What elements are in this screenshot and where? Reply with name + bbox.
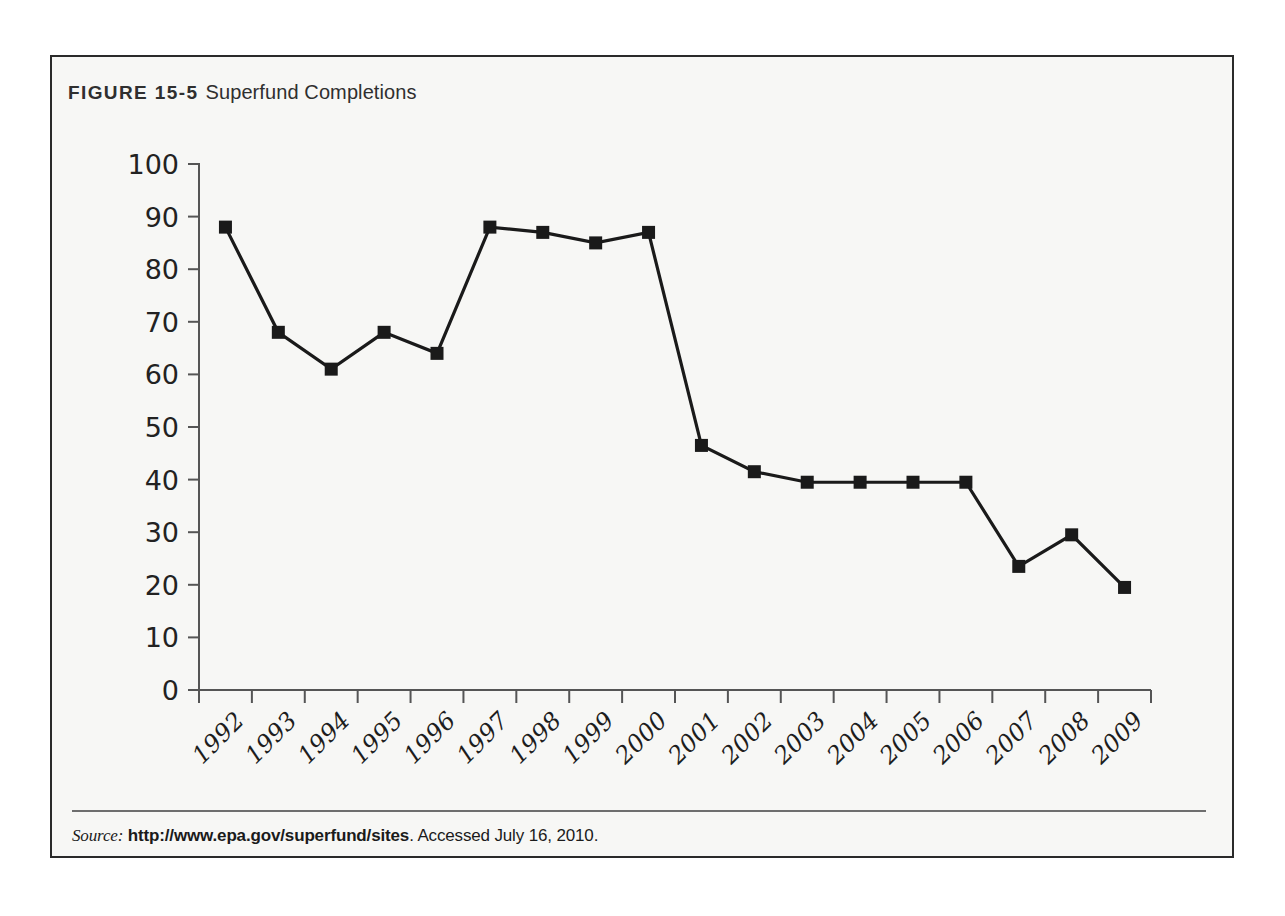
figure-title-label: Superfund Completions [206,81,417,103]
figure-frame [50,55,1234,858]
source-accessed-text: . Accessed July 16, 2010. [409,826,598,845]
source-divider [72,810,1206,812]
source-note: Source: http://www.epa.gov/superfund/sit… [72,826,598,846]
figure-caption: FIGURE 15-5Superfund Completions [68,80,417,105]
figure-number-label: FIGURE 15-5 [68,82,199,103]
source-prefix-label: Source: [72,826,123,845]
source-url-text: http://www.epa.gov/superfund/sites [128,826,409,845]
